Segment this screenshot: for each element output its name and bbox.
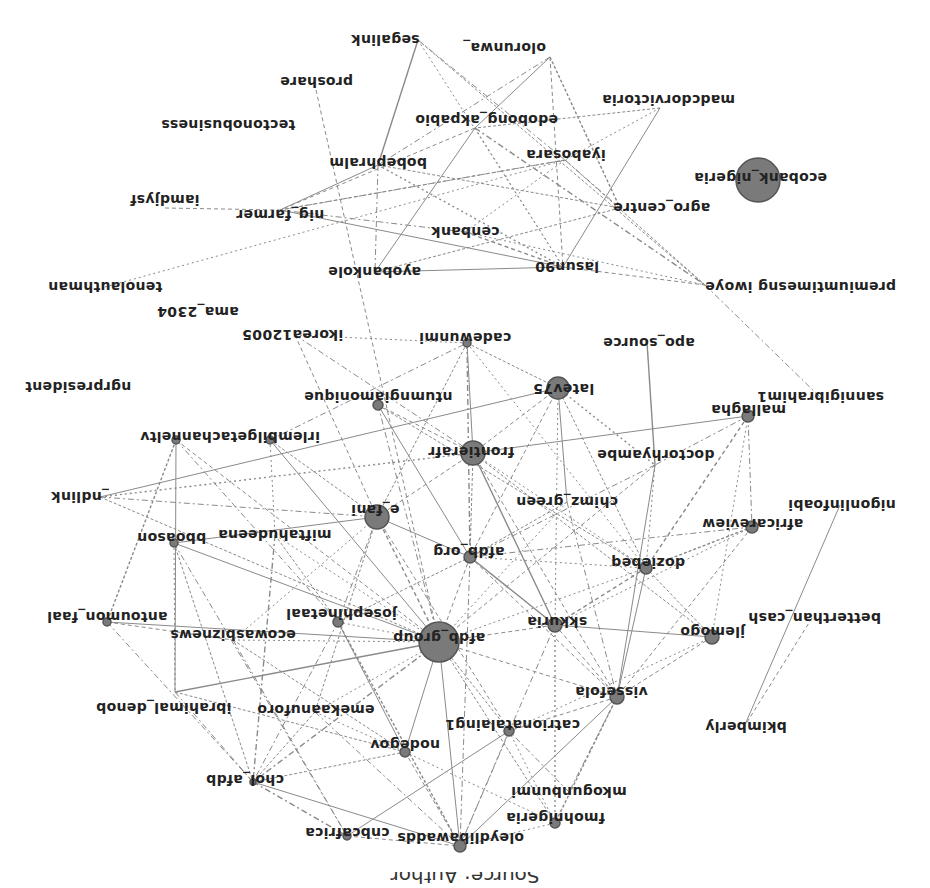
node-label-ntumngiamonique: ntumngiamonique [304,389,452,405]
edge [744,618,812,727]
node-label-tectonobusiness: tectonobusiness [161,117,295,133]
edge [295,335,377,517]
edge [378,40,418,165]
edge [646,465,655,568]
node-label-e_fani: e_fani [351,502,400,518]
node-label-cenbank: cenbank [431,224,500,240]
node-label-premiumtimesng_iwoye: premiumtimesng iwoye [705,279,896,295]
node-label-tenolauthman: tenolauthman [48,279,162,295]
network-graph: segalinkolorunwa_prosharemadcdorvictoria… [0,0,930,888]
edge [174,543,253,782]
edge [375,128,475,272]
node-label-cnbcafrica: cnbcafrica [305,825,390,841]
edge [270,440,275,535]
node-label-proshare: proshare [280,74,353,90]
node-label-nodegov: nodegov [370,737,440,753]
node-label-nig_farmer: nig_farmer [236,207,324,223]
edge [375,165,378,272]
edge [378,57,550,165]
edge [509,731,569,792]
edge [473,453,712,637]
node-label-madcdorvictoria: madcdorvictoria [602,92,735,108]
node-label-ecowasbiznews: ecowasbiznews [170,627,296,643]
edge [646,416,748,568]
node-label-miftahudeena: miftahudeena [218,527,332,543]
node-label-bobephralm: bobephralm [329,155,427,171]
node-label-mkogunbunmi: mkogunbunmi [511,784,627,800]
node-label-edobong_akpabio: edobong_akpabio [415,112,558,128]
node-label-doctorhyambe: doctorhyambe [597,447,714,463]
node-label-ayobankole: ayobankole [328,264,421,280]
node-label-vissefola: vissefola [575,684,648,700]
edge [378,405,646,568]
edge [563,108,660,267]
node-label-doziebeq: doziebeq [611,555,685,571]
node-label-afdb_group: afdb_group [393,630,485,646]
edge [550,57,620,208]
node-label-iyabosara: iyabosara [526,147,606,163]
edge [558,388,567,502]
edge [617,568,646,697]
node-label-_ndlink: _ndlink [51,489,109,505]
node-label-chimz_green: chimz_green [516,494,618,510]
edge [378,165,563,267]
node-label-ama_2304: ama_2304 [157,304,239,320]
node-label-iamdjysf: iamdjysf [130,192,200,208]
edge [473,453,617,697]
node-label-fmohnigeria: fmohnigeria [506,810,605,826]
edge [460,557,470,846]
node-label-latev75: latev75 [533,381,594,397]
node-label-afdb_org: afdb_org [433,544,505,560]
edge [377,343,467,517]
node-label-ibrahimal_denob: ibrahimal_denob [96,700,231,716]
node-label-segalink: segalink [351,32,420,48]
node-label-skkuria: skkuria [527,614,587,630]
edge [473,453,555,625]
node-label-nigonlinfoabi: nigonlinfoabi [788,497,896,513]
node-label-irlembilgetachanneltv: irlembilgetachanneltv [140,429,320,445]
node-label-olorunwa_: olorunwa_ [463,40,546,56]
node-label-africareview: africareview [702,516,803,532]
edge [705,285,820,397]
edge [174,543,347,836]
node-label-lasun90: lasun90 [535,259,599,275]
node-label-emekaanuforo: emekaanuforo [257,702,375,718]
node-label-jlemogo: jlemogo [680,624,745,640]
node-label-antoumon_faal: antoumon_faal [47,609,168,625]
node-label-ngrpresident: ngrpresident [25,379,131,395]
edge [253,535,275,782]
edge [100,497,377,517]
node-label-catrionatalaing1: catrionatalaing1 [445,717,580,733]
edge [748,416,752,527]
edge [418,40,565,160]
node-label-mallagha: mallagha [711,402,786,418]
edge [280,165,378,210]
node-label-josephinetaal: josephinetaal [286,606,397,622]
figure-caption: Source: Author [0,872,930,888]
node-label-frontierafr: frontierafr [428,444,514,460]
edge [555,697,617,823]
node-label-bkimberly: bkimberly [705,719,787,735]
edge [233,640,405,752]
edge [316,90,439,642]
node-label-cadewunmi: cadewunmi [419,330,511,346]
node-label-betterthan_cash: betterthan_cash [748,610,881,626]
node-label-chol_afdb: chol_afdb [206,772,284,788]
node-label-bboason: bboason [137,530,206,546]
node-label-oleydlibawadds: oleydlibawadds [397,830,524,846]
node-label-ikorea12005: ikorea12005 [242,327,343,343]
edge [233,640,347,836]
node-label-agro_centre: agro_centre [613,200,710,216]
node-label-ecobank_nigeria: ecobank_nigeria [694,170,827,186]
edge [275,535,439,642]
edge [617,465,655,697]
node-label-apo_source: apo_source [603,335,695,351]
